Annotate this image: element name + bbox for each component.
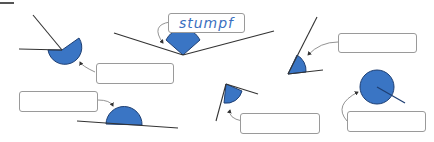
arrow-1 (80, 62, 95, 72)
answer-box-3[interactable] (338, 33, 417, 53)
answer-box-6[interactable] (347, 111, 426, 132)
answer-box-2[interactable]: stumpf (168, 13, 245, 33)
answer-box-1[interactable] (96, 63, 174, 84)
answer-text-2: stumpf (179, 15, 234, 31)
full-angle-figure (360, 70, 405, 104)
angle-worksheet: stumpf (0, 0, 434, 142)
answer-box-5[interactable] (240, 113, 320, 134)
arrow-3 (308, 42, 338, 55)
reflex-angle-figure (19, 15, 82, 64)
acute-angle-figure (288, 17, 323, 74)
answer-box-4[interactable] (19, 91, 98, 112)
arrow-4 (98, 100, 113, 106)
obtuse-angle-figure (114, 29, 274, 55)
